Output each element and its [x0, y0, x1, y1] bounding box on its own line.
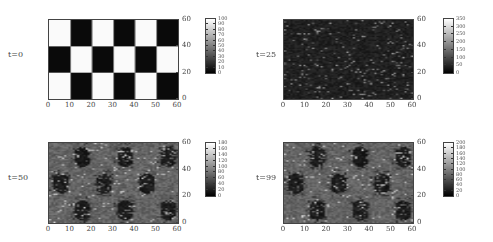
colorbar-tick-mark	[451, 49, 453, 50]
colorbar-tick-label: 100	[218, 163, 228, 168]
colorbar-tick-label: 300	[456, 23, 466, 28]
y-tick-mark	[411, 72, 414, 73]
y-tick-mark	[176, 72, 179, 73]
colorbar-tick-mark	[206, 177, 208, 178]
colorbar-tick-label: 80	[456, 171, 462, 176]
colorbar-tick-mark	[206, 67, 208, 68]
x-tick-label: 40	[365, 101, 374, 109]
colorbar-tick-mark	[206, 56, 208, 57]
x-tick-label: 60	[408, 101, 417, 109]
colorbar-tick-label: 60	[456, 177, 462, 182]
x-tick-label: 20	[322, 225, 331, 233]
colorbar-tick-mark	[213, 45, 215, 46]
y-tick-label: 60	[182, 138, 191, 146]
colorbar-tick-mark	[451, 33, 453, 34]
colorbar-tick-label: 50	[218, 43, 224, 48]
y-tick-mark	[411, 45, 414, 46]
x-tick-label: 30	[108, 101, 117, 109]
colorbar-tick-label: 160	[456, 150, 466, 155]
colorbar-tick-label: 20	[456, 187, 462, 192]
colorbar-tick-mark	[444, 169, 446, 170]
x-tick-label: 10	[65, 225, 74, 233]
y-tick-mark	[176, 222, 179, 223]
colorbar-tick-label: 100	[456, 166, 466, 171]
colorbar-tick-label: 40	[456, 182, 462, 187]
colorbar-tick-mark	[213, 183, 215, 184]
colorbar-tick-mark	[213, 148, 215, 149]
colorbar-tick-mark	[206, 23, 208, 24]
colorbar-tick-mark	[213, 34, 215, 35]
colorbar-tick-mark	[206, 154, 208, 155]
colorbar-tick-mark	[444, 41, 446, 42]
colorbar-tick-mark	[206, 45, 208, 46]
colorbar-tick-label: 20	[218, 59, 224, 64]
y-tick-label: 40	[182, 41, 191, 49]
colorbar-tick-label: 180	[218, 140, 228, 145]
heatmap-plot-area	[48, 142, 179, 224]
x-tick-label: 40	[130, 101, 139, 109]
colorbar-tick-mark	[444, 26, 446, 27]
colorbar-tick-mark	[206, 183, 208, 184]
colorbar-tick-mark	[213, 56, 215, 57]
y-tick-label: 40	[182, 165, 191, 173]
x-tick-label: 0	[46, 225, 50, 233]
y-tick-label: 60	[417, 138, 426, 146]
colorbar-tick-label: 60	[218, 175, 224, 180]
colorbar-tick-mark	[451, 184, 453, 185]
colorbar-tick-label: 200	[456, 140, 466, 145]
y-tick-mark	[411, 195, 414, 196]
x-tick-label: 0	[46, 101, 50, 109]
colorbar-tick-mark	[213, 160, 215, 161]
colorbar-tick-mark	[444, 64, 446, 65]
colorbar-tick-mark	[444, 49, 446, 50]
colorbar-tick-label: 100	[218, 16, 228, 21]
colorbar-tick-label: 10	[218, 64, 224, 69]
colorbar-tick-label: 80	[218, 26, 224, 31]
colorbar-tick-mark	[444, 147, 446, 148]
colorbar-tick-mark	[451, 41, 453, 42]
colorbar-tick-mark	[213, 23, 215, 24]
colorbar-tick-label: 250	[456, 31, 466, 36]
heatmap-plot-area	[48, 19, 179, 100]
x-tick-label: 30	[343, 101, 352, 109]
colorbar-tick-label: 0	[456, 193, 459, 198]
colorbar-tick-label: 140	[218, 151, 228, 156]
colorbar-tick-label: 40	[218, 181, 224, 186]
x-tick-label: 60	[408, 225, 417, 233]
y-tick-label: 60	[182, 15, 191, 23]
colorbar-tick-mark	[444, 33, 446, 34]
colorbar-tick-label: 40	[218, 48, 224, 53]
colorbar-tick-mark	[444, 190, 446, 191]
y-tick-mark	[411, 19, 414, 20]
colorbar-tick-mark	[206, 29, 208, 30]
colorbar-tick-mark	[213, 67, 215, 68]
colorbar-tick-mark	[444, 158, 446, 159]
colorbar-tick-mark	[451, 64, 453, 65]
y-tick-label: 20	[182, 191, 191, 199]
colorbar-tick-label: 0	[456, 70, 459, 75]
y-tick-label: 20	[417, 68, 426, 76]
colorbar-tick-mark	[451, 179, 453, 180]
colorbar-tick-label: 20	[218, 187, 224, 192]
x-tick-label: 50	[386, 101, 395, 109]
x-tick-label: 30	[343, 225, 352, 233]
colorbar-tick-mark	[213, 177, 215, 178]
colorbar-tick-mark	[206, 40, 208, 41]
colorbar-tick-mark	[206, 61, 208, 62]
y-tick-mark	[176, 195, 179, 196]
y-tick-label: 0	[182, 94, 186, 102]
colorbar-tick-mark	[206, 148, 208, 149]
x-tick-label: 40	[130, 225, 139, 233]
colorbar-tick-mark	[213, 29, 215, 30]
colorbar-tick-mark	[206, 171, 208, 172]
y-tick-mark	[176, 169, 179, 170]
y-tick-mark	[176, 98, 179, 99]
colorbar-tick-mark	[213, 154, 215, 155]
x-tick-label: 20	[87, 225, 96, 233]
colorbar-tick-mark	[444, 153, 446, 154]
x-tick-label: 60	[173, 225, 182, 233]
colorbar-tick-label: 120	[456, 161, 466, 166]
colorbar-tick-label: 160	[218, 145, 228, 150]
colorbar-tick-label: 200	[456, 39, 466, 44]
colorbar-tick-mark	[451, 174, 453, 175]
